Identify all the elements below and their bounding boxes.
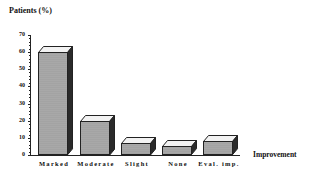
bar-front xyxy=(121,143,151,155)
y-tick xyxy=(28,121,31,122)
x-category-label: Marked xyxy=(32,160,76,167)
x-category-label: None xyxy=(156,160,200,167)
y-tick xyxy=(28,155,31,156)
y-minor-tick xyxy=(29,131,31,132)
y-minor-tick xyxy=(29,152,31,153)
y-tick-label: 10 xyxy=(10,134,25,140)
y-tick xyxy=(28,69,31,70)
bar-marked xyxy=(38,46,73,155)
bar-front xyxy=(162,146,192,155)
bar-moderate xyxy=(80,115,115,155)
y-minor-tick xyxy=(29,76,31,77)
y-tick-label: 0 xyxy=(10,151,25,157)
y-minor-tick xyxy=(29,135,31,136)
y-minor-tick xyxy=(29,59,31,60)
y-minor-tick xyxy=(29,83,31,84)
bar-front xyxy=(203,141,233,155)
y-minor-tick xyxy=(29,72,31,73)
y-minor-tick xyxy=(29,118,31,119)
x-category-label: Eval. imp. xyxy=(197,160,241,167)
y-minor-tick xyxy=(29,45,31,46)
y-tick-label: 60 xyxy=(10,48,25,54)
y-minor-tick xyxy=(29,141,31,142)
y-tick xyxy=(28,138,31,139)
x-axis-title: Improvement xyxy=(253,150,297,159)
y-minor-tick xyxy=(29,55,31,56)
y-tick xyxy=(28,104,31,105)
y-minor-tick xyxy=(29,101,31,102)
y-minor-tick xyxy=(29,145,31,146)
y-tick xyxy=(28,52,31,53)
y-minor-tick xyxy=(29,94,31,95)
y-minor-tick xyxy=(29,49,31,50)
y-tick xyxy=(28,86,31,87)
y-minor-tick xyxy=(29,97,31,98)
y-tick xyxy=(28,35,31,36)
y-minor-tick xyxy=(29,128,31,129)
x-category-label: Moderate xyxy=(74,160,118,167)
bar-front xyxy=(38,52,68,155)
x-category-label: Slight xyxy=(115,160,159,167)
y-tick-label: 30 xyxy=(10,100,25,106)
y-tick-label: 40 xyxy=(10,82,25,88)
bar-eval-imp xyxy=(203,135,238,155)
bar-none xyxy=(162,140,197,155)
y-minor-tick xyxy=(29,148,31,149)
bar-slight xyxy=(121,137,156,155)
y-tick-label: 20 xyxy=(10,117,25,123)
bar-front xyxy=(80,121,110,155)
y-tick-label: 70 xyxy=(10,31,25,37)
y-tick-label: 50 xyxy=(10,65,25,71)
y-minor-tick xyxy=(29,42,31,43)
y-axis-title: Patients (%) xyxy=(9,6,52,15)
y-minor-tick xyxy=(29,111,31,112)
y-minor-tick xyxy=(29,66,31,67)
y-minor-tick xyxy=(29,107,31,108)
y-minor-tick xyxy=(29,114,31,115)
y-minor-tick xyxy=(29,62,31,63)
y-minor-tick xyxy=(29,79,31,80)
y-minor-tick xyxy=(29,124,31,125)
y-minor-tick xyxy=(29,90,31,91)
y-minor-tick xyxy=(29,38,31,39)
